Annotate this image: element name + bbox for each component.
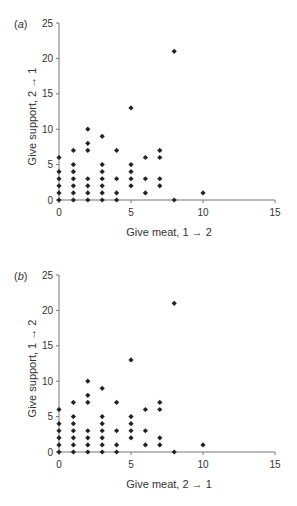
data-point [143,407,148,412]
data-point [85,400,90,405]
data-point [100,386,105,391]
data-point [157,435,162,440]
data-point [114,148,119,153]
data-point [56,442,61,447]
data-point [114,449,119,454]
data-point [85,127,90,132]
data-point [114,442,119,447]
data-point [128,162,133,167]
data-point [114,190,119,195]
data-point [71,442,76,447]
y-tick-label: 10 [42,124,54,135]
data-point [143,155,148,160]
scatter-plot-b: 0510150510152025Give meat, 2 → 1Give sup… [0,252,297,502]
data-point [56,176,61,181]
data-point [100,428,105,433]
data-point [128,357,133,362]
data-point [85,176,90,181]
data-point [56,169,61,174]
x-tick-label: 15 [269,207,281,218]
x-tick-label: 5 [128,459,134,470]
data-point [128,421,133,426]
y-tick-label: 5 [47,411,53,422]
data-point [85,190,90,195]
y-tick-label: 15 [42,88,54,99]
data-point [100,134,105,139]
data-point [71,183,76,188]
data-point [56,421,61,426]
data-point [85,435,90,440]
x-tick-label: 5 [128,207,134,218]
data-point [71,176,76,181]
data-point [100,169,105,174]
data-point [100,421,105,426]
y-tick-label: 20 [42,53,54,64]
y-tick-label: 25 [42,18,54,29]
data-point [157,176,162,181]
data-point [56,155,61,160]
data-point [114,428,119,433]
x-axis-label: Give meat, 2 → 1 [126,478,212,490]
data-point [143,442,148,447]
data-point [85,197,90,202]
data-point [85,183,90,188]
data-point [128,183,133,188]
data-point [128,176,133,181]
data-point [56,428,61,433]
data-point [85,428,90,433]
data-point [85,449,90,454]
scatter-plot-a: 0510150510152025Give meat, 1 → 2Give sup… [0,0,297,250]
data-point [157,155,162,160]
data-point [100,183,105,188]
figure-caption-fragment [10,496,290,504]
data-point [128,414,133,419]
data-point [56,183,61,188]
data-point [71,435,76,440]
data-point [85,393,90,398]
data-point [85,141,90,146]
data-point [56,449,61,454]
data-point [56,190,61,195]
data-point [172,449,177,454]
x-tick-label: 10 [197,459,209,470]
data-point [71,449,76,454]
data-point [100,435,105,440]
data-points [56,301,205,455]
data-point [85,442,90,447]
data-point [114,197,119,202]
data-point [71,197,76,202]
y-tick-label: 15 [42,340,54,351]
x-axis-label: Give meat, 1 → 2 [126,226,212,238]
data-point [71,421,76,426]
data-point [143,176,148,181]
data-point [56,197,61,202]
data-point [71,169,76,174]
x-tick-label: 15 [269,459,281,470]
data-point [128,169,133,174]
panel-label: (a) [14,18,27,30]
data-point [100,449,105,454]
scatter-panel-b: 0510150510152025Give meat, 2 → 1Give sup… [0,252,297,502]
y-axis-label: Give support, 1 → 2 [26,320,38,418]
data-point [71,400,76,405]
data-point [114,176,119,181]
data-point [172,49,177,54]
data-point [172,301,177,306]
data-point [100,197,105,202]
data-point [157,148,162,153]
data-point [56,435,61,440]
data-point [157,183,162,188]
y-tick-label: 0 [47,195,53,206]
data-point [71,148,76,153]
data-point [100,414,105,419]
data-point [100,162,105,167]
data-point [143,190,148,195]
data-point [157,407,162,412]
data-point [71,414,76,419]
data-point [100,442,105,447]
y-tick-label: 25 [42,270,54,281]
data-point [157,400,162,405]
data-points [56,49,205,203]
x-tick-label: 0 [56,207,62,218]
data-point [56,407,61,412]
